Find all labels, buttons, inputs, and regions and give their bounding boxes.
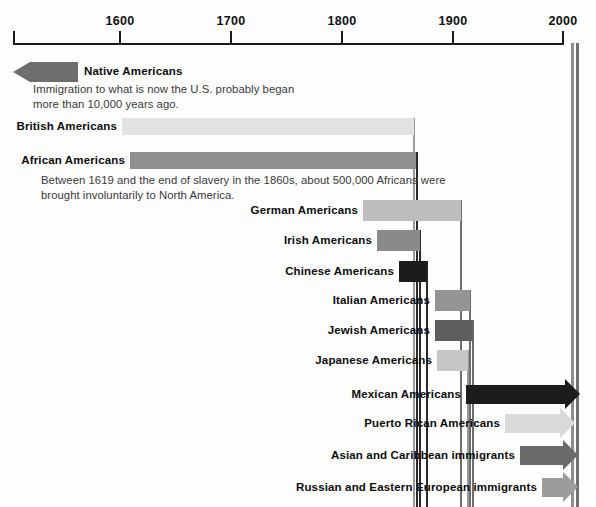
label-chinese-americans: Chinese Americans	[285, 265, 394, 277]
bar-chinese-americans	[399, 261, 427, 282]
bar-british-americans	[122, 118, 414, 135]
bar-mexican-americans-arrowhead	[565, 379, 580, 409]
bar-jewish-americans	[435, 320, 473, 341]
axis-tick-label-1800: 1800	[327, 14, 356, 28]
note-native-americans: Immigration to what is now the U.S. prob…	[33, 82, 294, 112]
axis-tick-1600	[119, 31, 121, 44]
label-asian-caribbean-immigrants: Asian and Caribbean immigrants	[331, 449, 515, 461]
label-jewish-americans: Jewish Americans	[328, 324, 430, 336]
immigration-timeline-chart: 1600 1700 1800 1900 2000 Native American…	[0, 0, 596, 507]
bar-native-americans-arrowhead	[13, 62, 30, 82]
bar-mexican-americans-shaft	[466, 385, 570, 404]
label-irish-americans: Irish Americans	[284, 234, 372, 246]
bar-african-americans	[130, 152, 416, 169]
bar-asian-caribbean-immigrants-arrowhead	[563, 440, 578, 470]
right-edge-line-b	[576, 43, 579, 507]
axis-tick-2000	[562, 31, 564, 44]
dropline-jewish	[472, 320, 474, 507]
bar-italian-americans	[435, 290, 470, 311]
label-british-americans: British Americans	[16, 120, 117, 132]
note-african-americans: Between 1619 and the end of slavery in t…	[41, 173, 446, 203]
label-german-americans: German Americans	[251, 204, 358, 216]
label-japanese-americans: Japanese Americans	[315, 354, 432, 366]
label-italian-americans: Italian Americans	[333, 294, 430, 306]
label-puerto-rican-americans: Puerto Rican Americans	[364, 417, 500, 429]
axis-tick-label-1600: 1600	[105, 14, 134, 28]
axis-tick-label-1700: 1700	[216, 14, 245, 28]
axis-tick-label-1900: 1900	[438, 14, 467, 28]
bar-asian-caribbean-immigrants-shaft	[520, 446, 568, 465]
axis-tick-1700	[230, 31, 232, 44]
label-native-americans: Native Americans	[84, 65, 183, 77]
label-african-americans: African Americans	[21, 154, 125, 166]
bar-puerto-rican-americans-shaft	[505, 414, 565, 433]
timeline-axis	[13, 43, 564, 45]
bar-puerto-rican-americans-arrowhead	[560, 408, 575, 438]
axis-tick-1900	[452, 31, 454, 44]
axis-tick-1800	[341, 31, 343, 44]
bar-japanese-americans	[437, 350, 468, 371]
label-russian-eastern-european-immigrants: Russian and Eastern European immigrants	[296, 481, 537, 493]
axis-tick-label-2000: 2000	[548, 14, 577, 28]
axis-left-cap	[13, 31, 15, 45]
bar-native-americans-shaft	[30, 62, 78, 82]
bar-russian-eastern-european-immigrants-arrowhead	[563, 472, 578, 502]
bar-german-americans	[363, 200, 461, 221]
label-mexican-americans: Mexican Americans	[351, 388, 461, 400]
bar-irish-americans	[377, 230, 420, 251]
